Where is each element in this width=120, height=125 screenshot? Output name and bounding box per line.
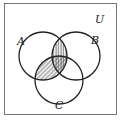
set-c-label: C [55,99,64,112]
set-b-label: B [90,34,99,47]
universe-label: U [95,13,105,26]
venn-diagram: U A B C [0,0,120,125]
set-a-label: A [16,35,25,48]
